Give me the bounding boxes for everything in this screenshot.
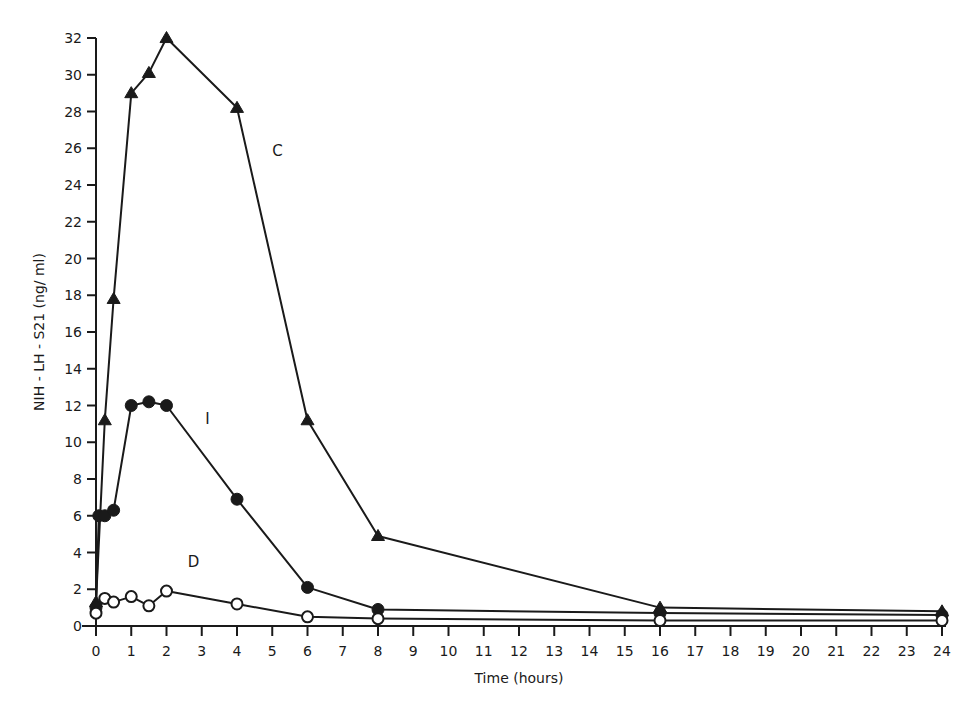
x-tick-label: 0 xyxy=(92,643,101,659)
series-label-d: D xyxy=(188,553,200,571)
x-tick-label: 16 xyxy=(651,643,669,659)
x-tick-label: 9 xyxy=(409,643,418,659)
y-tick-label: 8 xyxy=(73,471,82,487)
pharmacokinetic-line-chart: 02468101214161820222426283032 0123456789… xyxy=(0,0,976,711)
y-tick-label: 28 xyxy=(64,104,82,120)
triangle-marker xyxy=(142,66,155,77)
chart-canvas: 02468101214161820222426283032 0123456789… xyxy=(0,0,976,711)
triangle-marker xyxy=(160,32,173,43)
open-circle-marker xyxy=(143,600,154,611)
y-tick-label: 6 xyxy=(73,508,82,524)
x-tick-label: 1 xyxy=(127,643,136,659)
x-tick-label: 10 xyxy=(440,643,458,659)
x-tick-label: 12 xyxy=(510,643,528,659)
series-label-i: I xyxy=(205,410,209,428)
series-c: C xyxy=(90,32,949,616)
y-axis-title: NIH - LH - S21 (ng/ ml) xyxy=(31,253,47,411)
x-axis-title: Time (hours) xyxy=(474,670,564,686)
y-tick-label: 16 xyxy=(64,324,82,340)
x-tick-label: 4 xyxy=(233,643,242,659)
x-tick-label: 17 xyxy=(686,643,704,659)
y-tick-label: 24 xyxy=(64,177,82,193)
triangle-marker xyxy=(372,529,385,540)
open-circle-marker xyxy=(161,586,172,597)
open-circle-marker xyxy=(373,613,384,624)
x-tick-label: 15 xyxy=(616,643,634,659)
y-tick-label: 32 xyxy=(64,30,82,46)
open-circle-marker xyxy=(655,615,666,626)
y-tick-label: 10 xyxy=(64,434,82,450)
y-tick-label: 26 xyxy=(64,140,82,156)
x-tick-label: 6 xyxy=(303,643,312,659)
y-tick-label: 22 xyxy=(64,214,82,230)
open-circle-marker xyxy=(126,591,137,602)
open-circle-marker xyxy=(937,615,948,626)
x-tick-label: 8 xyxy=(374,643,383,659)
y-tick-label: 0 xyxy=(73,618,82,634)
x-tick-label: 2 xyxy=(162,643,171,659)
x-tick-label: 22 xyxy=(863,643,881,659)
series-layer: CID xyxy=(90,32,949,626)
filled-circle-marker xyxy=(231,493,243,505)
x-tick-label: 23 xyxy=(898,643,916,659)
x-axis: 0123456789101112131415161718192021222324 xyxy=(82,626,951,659)
y-tick-label: 4 xyxy=(73,545,82,561)
triangle-marker xyxy=(107,292,120,303)
series-line xyxy=(96,591,942,620)
x-tick-label: 13 xyxy=(545,643,563,659)
filled-circle-marker xyxy=(125,400,137,412)
y-tick-label: 12 xyxy=(64,398,82,414)
x-tick-label: 18 xyxy=(722,643,740,659)
x-tick-label: 3 xyxy=(197,643,206,659)
open-circle-marker xyxy=(302,611,313,622)
filled-circle-marker xyxy=(143,396,155,408)
x-tick-label: 21 xyxy=(827,643,845,659)
y-tick-label: 20 xyxy=(64,251,82,267)
x-tick-label: 14 xyxy=(581,643,599,659)
triangle-marker xyxy=(98,414,111,425)
filled-circle-marker xyxy=(302,581,314,593)
y-tick-label: 2 xyxy=(73,581,82,597)
y-axis: 02468101214161820222426283032 xyxy=(64,30,96,634)
y-tick-label: 30 xyxy=(64,67,82,83)
x-tick-label: 11 xyxy=(475,643,493,659)
x-tick-label: 5 xyxy=(268,643,277,659)
open-circle-marker xyxy=(232,598,243,609)
x-tick-label: 20 xyxy=(792,643,810,659)
y-tick-label: 14 xyxy=(64,361,82,377)
open-circle-marker xyxy=(91,608,102,619)
filled-circle-marker xyxy=(161,400,173,412)
open-circle-marker xyxy=(108,597,119,608)
x-tick-label: 19 xyxy=(757,643,775,659)
y-tick-label: 18 xyxy=(64,287,82,303)
series-line xyxy=(96,402,942,615)
series-label-c: C xyxy=(272,142,282,160)
triangle-marker xyxy=(301,414,314,425)
x-tick-label: 7 xyxy=(338,643,347,659)
x-tick-label: 24 xyxy=(933,643,951,659)
series-i: I xyxy=(90,396,948,621)
series-line xyxy=(96,38,942,611)
filled-circle-marker xyxy=(108,504,120,516)
